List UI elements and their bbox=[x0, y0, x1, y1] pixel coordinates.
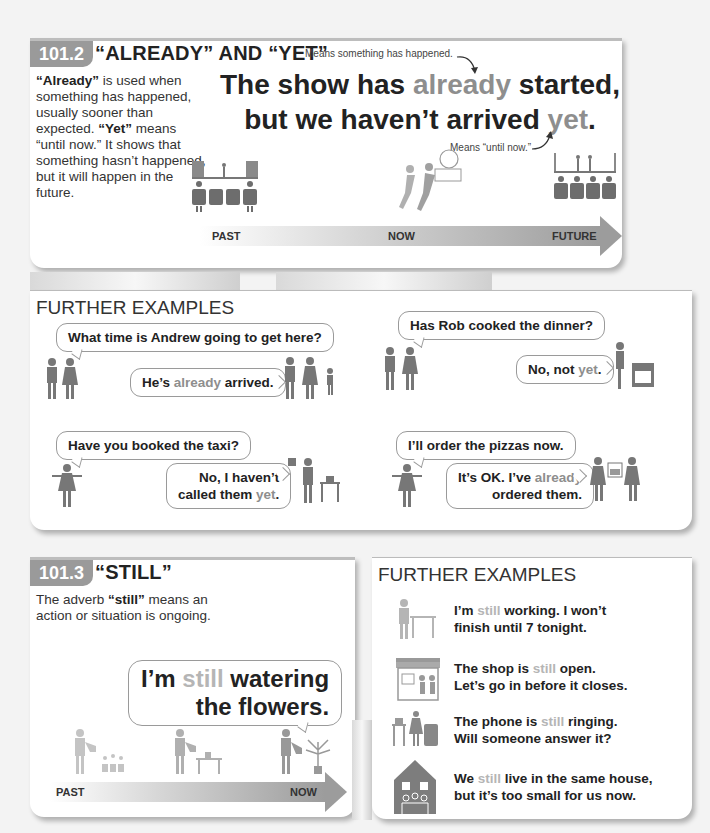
bubble-text: What time is Andrew going to get here? bbox=[68, 330, 322, 345]
bubble-text: It’s OK. I’ve bbox=[458, 470, 535, 485]
example-item-text: The shop is still open.Let’s go in befor… bbox=[454, 660, 628, 694]
term-still: “still” bbox=[108, 592, 145, 607]
example-text: I’m bbox=[454, 603, 477, 618]
example-text: live in the same house, bbox=[501, 771, 653, 786]
highlight-still: still bbox=[477, 603, 500, 618]
section-title: “STILL” bbox=[95, 561, 172, 584]
section-title: “ALREADY” AND “YET” bbox=[95, 42, 328, 65]
arrow-head bbox=[600, 216, 622, 256]
speech-bubble-question: I’ll order the pizzas now. bbox=[396, 431, 576, 460]
sentence-part: but we haven’t arrived bbox=[244, 104, 547, 135]
example-text: The phone is bbox=[454, 714, 541, 729]
term-already: “Already” bbox=[36, 73, 99, 88]
bubble-text: No, I haven’t bbox=[199, 470, 279, 485]
further-examples-panel-2: FURTHER EXAMPLES I’m still working. I wo… bbox=[372, 557, 692, 819]
highlight-already: already bbox=[413, 69, 511, 100]
ringing-phone-icon bbox=[390, 710, 440, 750]
highlight-still: still bbox=[478, 771, 501, 786]
timeline-label-past: PAST bbox=[56, 786, 85, 798]
sentence-part: . bbox=[588, 104, 596, 135]
woman-shrugging-icon bbox=[392, 463, 422, 509]
bubble-text: ordered them. bbox=[492, 487, 582, 502]
section-number-badge: 101.2 bbox=[30, 41, 93, 67]
couple-icon bbox=[42, 357, 82, 401]
speech-bubble-answer: He’s already arrived. bbox=[130, 368, 286, 397]
connector-left bbox=[30, 272, 240, 292]
speech-bubble-still: I’m still watering the flowers. bbox=[128, 660, 342, 726]
house-family-icon bbox=[392, 758, 438, 816]
highlight-yet: yet bbox=[578, 362, 598, 377]
timeline-label-now: NOW bbox=[388, 230, 415, 242]
example-text: working. I won’t bbox=[501, 603, 607, 618]
highlight-still: still bbox=[182, 665, 223, 692]
bubble-text: called them bbox=[178, 487, 256, 502]
bubble-text: Have you booked the taxi? bbox=[68, 438, 239, 453]
speech-bubble-answer: No, not yet. bbox=[516, 355, 614, 384]
bubble-text: . bbox=[276, 487, 280, 502]
timeline-arrow: PAST NOW bbox=[50, 782, 325, 802]
timeline-label-now: NOW bbox=[290, 786, 317, 798]
further-examples-title: FURTHER EXAMPLES bbox=[36, 297, 234, 319]
bubble-text: He’s bbox=[142, 375, 174, 390]
example-text: Let’s go in before it closes. bbox=[454, 678, 628, 693]
person-working-icon bbox=[394, 598, 438, 640]
speech-bubble-question: Have you booked the taxi? bbox=[56, 431, 251, 460]
speech-bubble-question: What time is Andrew going to get here? bbox=[56, 323, 334, 352]
further-examples-title: FURTHER EXAMPLES bbox=[378, 564, 576, 586]
bubble-text: I’m bbox=[141, 665, 182, 692]
bubble-text: the flowers. bbox=[196, 693, 329, 720]
section-101-2-panel: 101.2 “ALREADY” AND “YET” “Already” is u… bbox=[30, 38, 622, 268]
bubble-text: arrived. bbox=[221, 375, 274, 390]
example-item-text: The phone is still ringing.Will someone … bbox=[454, 713, 618, 747]
example-text: Will someone answer it? bbox=[454, 731, 611, 746]
person-telephone-icon bbox=[288, 456, 344, 506]
couple-pizza-box-icon bbox=[588, 455, 644, 505]
section-intro: The adverb “still” means an action or si… bbox=[36, 592, 226, 624]
sentence-part: The show has bbox=[220, 69, 413, 100]
sentence-part: started, bbox=[511, 69, 620, 100]
family-arriving-icon bbox=[280, 355, 342, 401]
intro-text: The adverb bbox=[36, 592, 108, 607]
bubble-text: watering bbox=[224, 665, 329, 692]
example-sentence: The show has already started, but we hav… bbox=[220, 67, 620, 137]
highlight-yet: yet bbox=[256, 487, 276, 502]
highlight-already: already bbox=[174, 375, 221, 390]
example-text: We bbox=[454, 771, 478, 786]
example-text: finish until 7 tonight. bbox=[454, 620, 587, 635]
example-text: but it’s too small for us now. bbox=[454, 788, 636, 803]
empty-theater-icon bbox=[190, 159, 260, 221]
timeline-label-past: PAST bbox=[212, 230, 241, 242]
section-101-3-panel: 101.3 “STILL” The adverb “still” means a… bbox=[30, 557, 355, 817]
example-text: The shop is bbox=[454, 661, 533, 676]
couple-icon bbox=[380, 346, 424, 392]
example-item-text: We still live in the same house,but it’s… bbox=[454, 770, 653, 804]
timeline-label-future: FUTURE bbox=[552, 230, 597, 242]
timeline-arrow: PAST NOW FUTURE bbox=[200, 226, 600, 246]
highlight-still: still bbox=[533, 661, 556, 676]
term-yet: “Yet” bbox=[98, 121, 132, 136]
highlight-still: still bbox=[541, 714, 564, 729]
person-watering-middle-icon bbox=[170, 728, 230, 776]
bubble-text: I’ll order the pizzas now. bbox=[408, 438, 564, 453]
bubble-text: No, not bbox=[528, 362, 578, 377]
example-text: open. bbox=[556, 661, 596, 676]
person-watering-past-icon bbox=[70, 728, 130, 776]
speech-bubble-answer: It’s OK. I’ve alreadyordered them. bbox=[446, 463, 594, 509]
note-already: Means something has happened. bbox=[305, 48, 453, 59]
arrow-head bbox=[325, 772, 347, 812]
shop-icon bbox=[394, 656, 442, 702]
example-text: ringing. bbox=[564, 714, 617, 729]
vertical-connector bbox=[352, 720, 372, 820]
woman-shrugging-icon bbox=[52, 463, 82, 509]
further-examples-panel-1: FURTHER EXAMPLES What time is Andrew goi… bbox=[30, 290, 692, 530]
example-item-text: I’m still working. I won’tfinish until 7… bbox=[454, 602, 606, 636]
section-intro: “Already” is used when something has hap… bbox=[36, 73, 206, 201]
bubble-text: Has Rob cooked the dinner? bbox=[410, 318, 593, 333]
full-theater-icon bbox=[552, 151, 618, 213]
section-number-badge: 101.3 bbox=[30, 560, 93, 586]
person-watering-now-icon bbox=[276, 728, 336, 776]
connector-right bbox=[276, 272, 492, 292]
person-cooker-icon bbox=[610, 341, 660, 391]
speech-bubble-answer: No, I haven’tcalled them yet. bbox=[166, 463, 291, 509]
speech-bubble-question: Has Rob cooked the dinner? bbox=[398, 311, 605, 340]
